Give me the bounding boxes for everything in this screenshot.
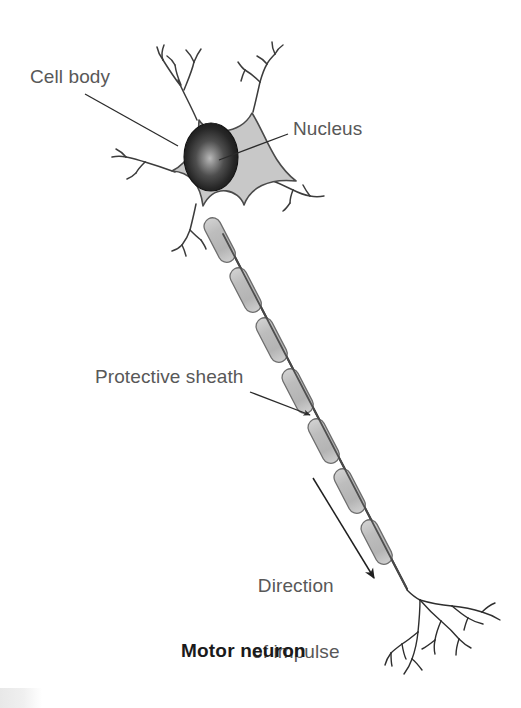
nucleus-ellipse: [184, 123, 238, 191]
dendrite-upper-right: [238, 42, 283, 112]
corner-artifact: [0, 688, 42, 708]
axon-terminals: [385, 590, 500, 674]
figure-title: Motor neuron: [181, 640, 306, 662]
protective-sheath-segments: [201, 215, 395, 567]
sheath-segment: [279, 366, 316, 416]
dendrite-lower-left: [172, 204, 206, 256]
leader-line-cell-body: [85, 94, 178, 146]
sheath-segment: [227, 265, 264, 315]
label-direction-of-impulse: Direction of impulse: [252, 531, 340, 707]
sheath-segment: [201, 215, 238, 265]
label-nucleus: Nucleus: [293, 118, 362, 140]
label-protective-sheath: Protective sheath: [95, 366, 244, 388]
label-direction-line-1: Direction: [252, 575, 340, 597]
sheath-segment: [253, 315, 290, 365]
dendrite-upper-left: [157, 45, 201, 120]
neuron-diagram-figure: Cell body Nucleus Protective sheath Dire…: [0, 0, 521, 708]
label-cell-body: Cell body: [30, 66, 110, 88]
sheath-segment: [305, 416, 342, 466]
sheath-segment: [331, 466, 368, 516]
dendrite-right: [266, 178, 324, 211]
dendrite-left: [112, 149, 175, 179]
